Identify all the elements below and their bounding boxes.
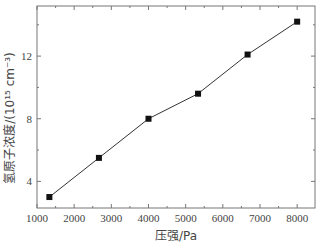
data-point-marker — [96, 155, 102, 161]
data-series — [46, 19, 300, 200]
data-point-marker — [46, 194, 52, 200]
x-axis-title: 压强/Pa — [155, 229, 197, 243]
line-chart: 100020003000400050006000700080004812 压强/… — [0, 0, 322, 248]
series-line — [49, 22, 297, 197]
data-point-marker — [195, 91, 201, 97]
data-point-marker — [245, 52, 251, 58]
x-tick-label: 8000 — [286, 212, 309, 224]
x-tick-label: 3000 — [100, 212, 123, 224]
data-point-marker — [294, 19, 300, 25]
data-point-marker — [145, 116, 151, 122]
plot-border — [37, 6, 315, 208]
x-tick-label: 7000 — [249, 212, 272, 224]
x-tick-label: 2000 — [63, 212, 86, 224]
y-tick-label: 12 — [21, 50, 32, 62]
x-tick-label: 1000 — [26, 212, 49, 224]
y-tick-label: 4 — [27, 175, 33, 187]
x-tick-label: 4000 — [137, 212, 160, 224]
plot-frame — [37, 6, 315, 208]
x-tick-label: 6000 — [212, 212, 235, 224]
x-tick-label: 5000 — [175, 212, 198, 224]
y-axis-title: 氢原子浓度/(10¹⁵ cm⁻³) — [2, 52, 17, 184]
y-tick-label: 8 — [27, 113, 33, 125]
